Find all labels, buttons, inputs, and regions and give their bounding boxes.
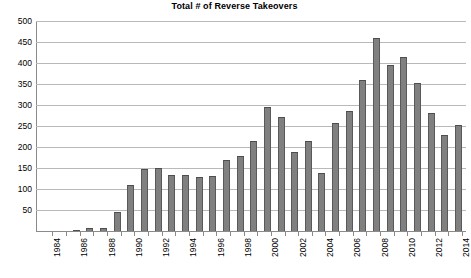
bar <box>278 117 285 231</box>
bar <box>168 175 175 231</box>
x-axis-label-2004: 2004 <box>326 238 334 257</box>
x-axis-tick <box>216 232 217 236</box>
bar <box>196 177 203 231</box>
y-axis-label-300: 300 <box>2 101 32 109</box>
bar <box>264 107 271 231</box>
x-axis-label-2008: 2008 <box>381 238 389 257</box>
bar <box>237 156 244 231</box>
x-axis-tick <box>121 232 122 236</box>
x-axis-label-2012: 2012 <box>435 238 443 257</box>
x-axis-tick <box>366 232 367 236</box>
x-axis-tick <box>353 232 354 236</box>
bar <box>346 111 353 231</box>
x-axis-tick <box>421 232 422 236</box>
bar <box>305 141 312 231</box>
y-axis-label-500: 500 <box>2 17 32 25</box>
bar <box>359 80 366 231</box>
x-axis-tick <box>93 232 94 236</box>
x-axis-tick <box>325 232 326 236</box>
x-axis-tick <box>189 232 190 236</box>
bar <box>209 176 216 231</box>
bar <box>86 228 93 231</box>
bar <box>155 168 162 231</box>
bar <box>250 141 257 231</box>
y-axis-label-250: 250 <box>2 122 32 130</box>
x-axis-tick <box>52 232 53 236</box>
chart-title: Total # of Reverse Takeovers <box>0 1 469 11</box>
x-axis-tick <box>394 232 395 236</box>
x-axis-label-1996: 1996 <box>217 238 225 257</box>
x-axis-label-1986: 1986 <box>80 238 88 257</box>
y-axis-label-200: 200 <box>2 143 32 151</box>
y-axis-label-50: 50 <box>2 206 32 214</box>
plot-area <box>36 21 466 231</box>
x-axis-label-1992: 1992 <box>162 238 170 257</box>
bar <box>141 169 148 231</box>
bar <box>100 228 107 231</box>
x-axis-tick <box>298 232 299 236</box>
x-axis-tick <box>380 232 381 236</box>
x-axis-tick <box>162 232 163 236</box>
x-axis-tick <box>230 232 231 236</box>
y-axis-label-350: 350 <box>2 80 32 88</box>
x-axis-tick <box>148 232 149 236</box>
bar <box>318 173 325 231</box>
x-axis-tick <box>66 232 67 236</box>
x-axis-tick <box>134 232 135 236</box>
bar <box>373 38 380 231</box>
x-axis-label-2010: 2010 <box>408 238 416 257</box>
y-axis-label-450: 450 <box>2 38 32 46</box>
x-axis-label-2002: 2002 <box>299 238 307 257</box>
bar <box>291 152 298 231</box>
x-axis-tick <box>257 232 258 236</box>
x-axis-tick <box>271 232 272 236</box>
gridline-0 <box>36 231 466 232</box>
x-axis-tick <box>448 232 449 236</box>
y-axis-label-150: 150 <box>2 164 32 172</box>
x-axis-tick <box>339 232 340 236</box>
bar <box>73 230 80 231</box>
x-axis-tick <box>435 232 436 236</box>
x-axis-tick <box>80 232 81 236</box>
bar <box>441 135 448 231</box>
y-axis-label-400: 400 <box>2 59 32 67</box>
bar <box>332 123 339 231</box>
bar <box>400 57 407 231</box>
x-axis-label-1984: 1984 <box>53 238 61 257</box>
bar <box>428 113 435 231</box>
bar <box>223 160 230 231</box>
x-axis-tick <box>203 232 204 236</box>
bar <box>127 185 134 231</box>
x-axis-tick <box>107 232 108 236</box>
bar <box>455 125 462 231</box>
x-axis-label-1988: 1988 <box>108 238 116 257</box>
x-axis-tick <box>462 232 463 236</box>
x-axis-tick <box>244 232 245 236</box>
x-axis-label-1990: 1990 <box>135 238 143 257</box>
bar <box>182 175 189 231</box>
x-axis-tick <box>285 232 286 236</box>
x-axis-label-1998: 1998 <box>244 238 252 257</box>
bar <box>387 65 394 231</box>
y-axis-label-100: 100 <box>2 185 32 193</box>
x-axis-label-2006: 2006 <box>353 238 361 257</box>
bars-group <box>36 21 466 231</box>
x-axis-tick <box>312 232 313 236</box>
bar <box>414 83 421 231</box>
x-axis-label-2000: 2000 <box>271 238 279 257</box>
x-axis-tick <box>175 232 176 236</box>
bar <box>114 212 121 231</box>
x-axis-tick <box>407 232 408 236</box>
x-axis-label-1994: 1994 <box>189 238 197 257</box>
x-axis-label-2014: 2014 <box>462 238 470 257</box>
